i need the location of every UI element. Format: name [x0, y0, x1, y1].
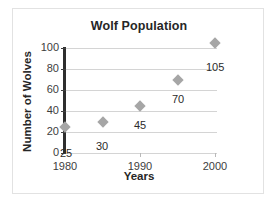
data-point-label: 45: [134, 119, 146, 131]
y-tick-label: 80: [33, 62, 59, 74]
gridline: [65, 48, 217, 49]
y-tick-label: 0: [33, 146, 59, 158]
data-point: [209, 37, 220, 48]
y-axis-line: [63, 47, 66, 154]
chart-title: Wolf Population: [13, 19, 265, 33]
data-point-label: 70: [172, 93, 184, 105]
y-axis-tick: [61, 111, 66, 112]
y-tick-label: 20: [33, 125, 59, 137]
y-tick-label: 60: [33, 83, 59, 95]
x-axis-title: Years: [13, 170, 265, 182]
y-axis-tick: [61, 69, 66, 70]
y-axis-tick: [61, 90, 66, 91]
gridline: [65, 132, 217, 133]
x-axis-tick: [140, 153, 141, 157]
chart-container: Wolf Population Number of Wolves 100 80 …: [12, 8, 264, 194]
data-point-label: 25: [60, 147, 72, 159]
gridline: [65, 111, 217, 112]
y-tick-label: 100: [33, 41, 59, 53]
data-point: [59, 121, 70, 132]
data-point: [134, 100, 145, 111]
plot-area: 100 80 60 40 20 0 1980 1990 2000 25 30 4…: [65, 48, 215, 153]
data-point-label: 105: [206, 61, 224, 73]
gridline: [65, 69, 217, 70]
data-point: [97, 116, 108, 127]
data-point: [172, 74, 183, 85]
x-axis-tick: [215, 153, 216, 157]
y-tick-label: 40: [33, 104, 59, 116]
y-axis-tick-labels: 100 80 60 40 20 0: [33, 48, 59, 153]
y-axis-tick: [61, 48, 66, 49]
gridline: [65, 90, 217, 91]
gridline: [65, 153, 217, 154]
data-point-label: 30: [96, 140, 108, 152]
y-axis-title: Number of Wolves: [21, 49, 33, 154]
